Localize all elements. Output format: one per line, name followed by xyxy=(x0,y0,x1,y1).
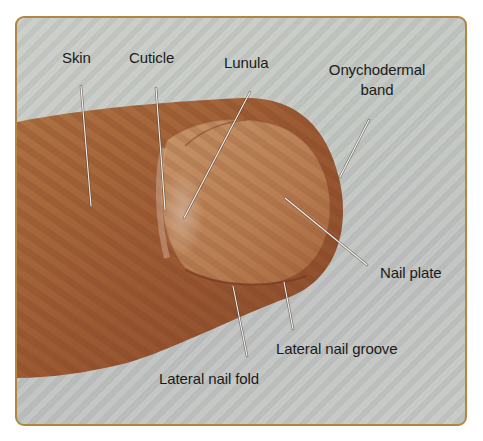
label-lateral-nail-groove: Lateral nail groove xyxy=(276,340,398,357)
label-skin: Skin xyxy=(62,49,91,66)
figure-frame: Skin Cuticle Lunula Onychodermal band Na… xyxy=(15,16,467,426)
nail-plate-shape xyxy=(159,119,330,284)
label-nail-plate: Nail plate xyxy=(380,264,442,281)
label-onychodermal-line1: Onychodermal xyxy=(307,61,447,78)
label-onychodermal-line2: band xyxy=(307,81,447,98)
label-lateral-nail-fold: Lateral nail fold xyxy=(159,370,259,387)
label-onychodermal-band: Onychodermal band xyxy=(307,61,447,98)
label-lunula: Lunula xyxy=(224,54,268,71)
label-cuticle: Cuticle xyxy=(129,49,174,66)
